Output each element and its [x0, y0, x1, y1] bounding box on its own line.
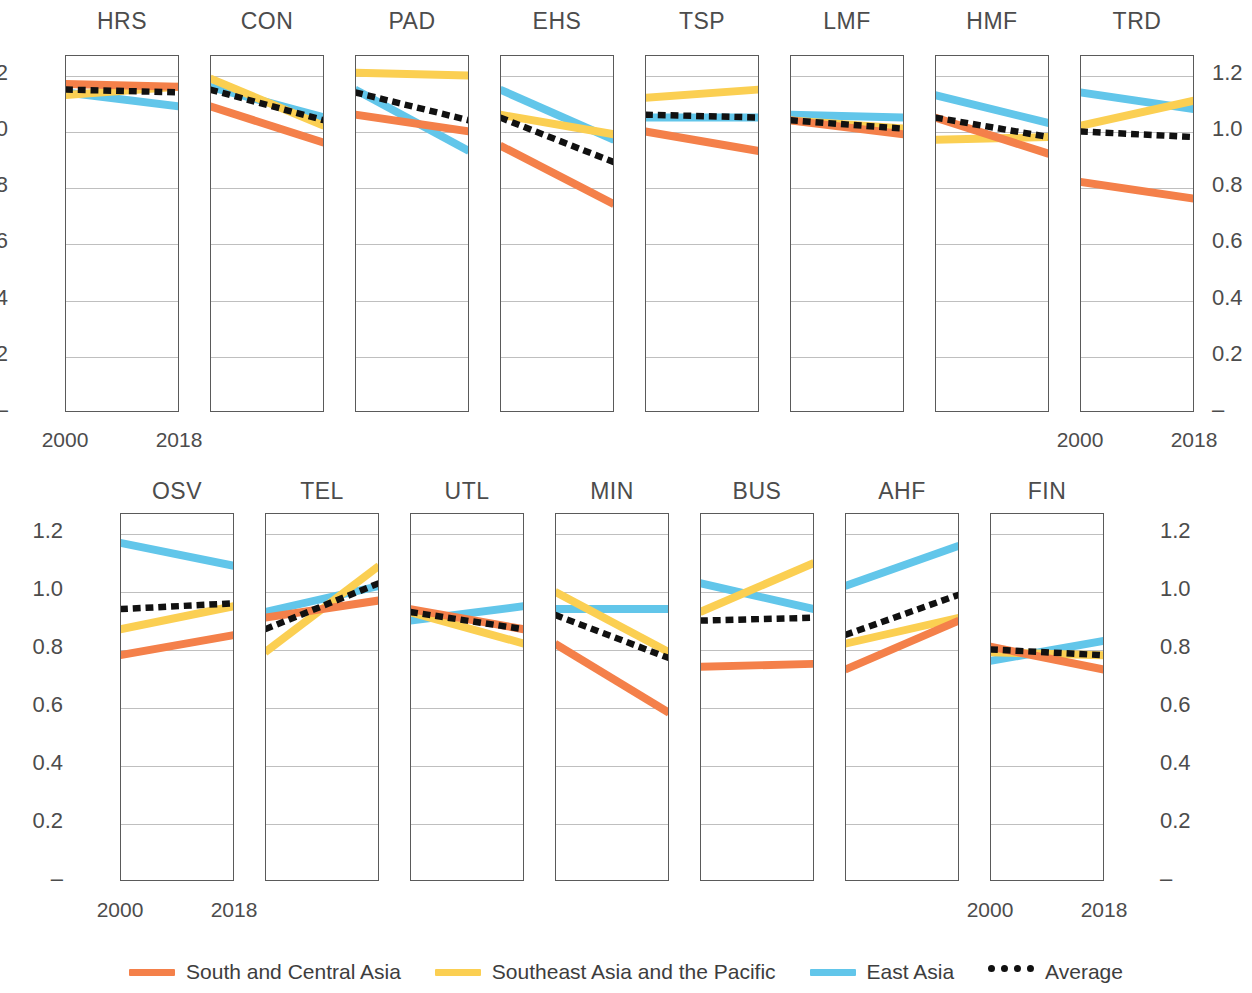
panel-title-fin: FIN: [990, 478, 1104, 505]
y-tick-label: 1.2: [1212, 60, 1252, 86]
panel-utl: [410, 513, 524, 881]
legend-item-south-and-central-asia[interactable]: South and Central Asia: [129, 960, 401, 984]
y-tick-label: 1.2: [13, 518, 63, 544]
panel-title-utl: UTL: [410, 478, 524, 505]
y-tick-label: –: [1212, 397, 1252, 423]
x-tick-label-2018: 2018: [1064, 898, 1144, 922]
y-tick-label: 0.8: [1212, 172, 1252, 198]
y-tick-label: 0.4: [0, 285, 8, 311]
panel-title-hrs: HRS: [65, 8, 179, 35]
panel-lines-lmf: [791, 56, 903, 411]
series-line-average: [645, 115, 759, 118]
panel-lines-hrs: [66, 56, 178, 411]
y-tick-label: 0.8: [13, 634, 63, 660]
panel-pad: [355, 55, 469, 412]
series-line-south-and-central-asia: [65, 84, 179, 87]
panel-lines-hmf: [936, 56, 1048, 411]
y-tick-label: 0.4: [1160, 750, 1220, 776]
panel-title-trd: TRD: [1080, 8, 1194, 35]
panel-lines-osv: [121, 514, 233, 880]
y-tick-label: –: [1160, 866, 1220, 892]
legend-swatch-icon: [810, 969, 856, 976]
x-tick-label-2000: 2000: [1040, 428, 1120, 452]
x-tick-label-2018: 2018: [194, 898, 274, 922]
panel-title-lmf: LMF: [790, 8, 904, 35]
panel-lines-ehs: [501, 56, 613, 411]
panel-hmf: [935, 55, 1049, 412]
y-tick-label: 0.6: [1212, 228, 1252, 254]
series-line-east-asia: [845, 546, 959, 586]
panel-osv: [120, 513, 234, 881]
series-line-average: [65, 90, 179, 93]
series-line-east-asia: [790, 115, 904, 118]
panel-tsp: [645, 55, 759, 412]
panel-ehs: [500, 55, 614, 412]
panel-title-hmf: HMF: [935, 8, 1049, 35]
panel-lines-min: [556, 514, 668, 880]
panel-title-ehs: EHS: [500, 8, 614, 35]
y-tick-label: 1.0: [13, 576, 63, 602]
y-tick-label: 0.2: [1212, 341, 1252, 367]
panel-con: [210, 55, 324, 412]
series-line-average: [790, 120, 904, 128]
y-tick-label: 0.6: [1160, 692, 1220, 718]
x-tick-label-2000: 2000: [950, 898, 1030, 922]
y-tick-label: 0.4: [13, 750, 63, 776]
y-tick-label: 0.6: [0, 228, 8, 254]
y-tick-label: 0.2: [13, 808, 63, 834]
y-tick-label: –: [0, 397, 8, 423]
y-tick-label: 0.8: [1160, 634, 1220, 660]
panel-min: [555, 513, 669, 881]
panel-title-ahf: AHF: [845, 478, 959, 505]
legend-swatch-icon: [129, 969, 175, 976]
y-tick-label: 1.2: [1160, 518, 1220, 544]
legend-swatch-icon: [435, 969, 481, 976]
panel-title-pad: PAD: [355, 8, 469, 35]
panel-title-bus: BUS: [700, 478, 814, 505]
y-tick-label: 0.8: [0, 172, 8, 198]
series-line-east-asia: [120, 543, 234, 566]
legend-label: Southeast Asia and the Pacific: [492, 960, 776, 984]
panel-trd: [1080, 55, 1194, 412]
y-tick-label: 0.4: [1212, 285, 1252, 311]
legend-swatch-icon: [988, 965, 1034, 979]
series-line-average: [1080, 131, 1194, 137]
panel-lines-con: [211, 56, 323, 411]
panel-lines-trd: [1081, 56, 1193, 411]
y-tick-label: 0.6: [13, 692, 63, 718]
panel-bus: [700, 513, 814, 881]
x-tick-label-2018: 2018: [1154, 428, 1234, 452]
panel-lines-utl: [411, 514, 523, 880]
panel-title-con: CON: [210, 8, 324, 35]
panel-lmf: [790, 55, 904, 412]
series-line-southeast-asia-and-the-pacific: [355, 73, 469, 76]
legend-item-average[interactable]: Average: [988, 960, 1123, 984]
y-tick-label: 1.0: [1212, 116, 1252, 142]
legend-label: East Asia: [867, 960, 955, 984]
panel-ahf: [845, 513, 959, 881]
y-tick-label: 1.0: [1160, 576, 1220, 602]
legend-label: Average: [1045, 960, 1123, 984]
series-line-south-and-central-asia: [645, 131, 759, 151]
legend-item-east-asia[interactable]: East Asia: [810, 960, 955, 984]
panel-hrs: [65, 55, 179, 412]
chart-legend: South and Central AsiaSoutheast Asia and…: [0, 960, 1252, 984]
panel-title-min: MIN: [555, 478, 669, 505]
legend-label: South and Central Asia: [186, 960, 401, 984]
panel-title-tsp: TSP: [645, 8, 759, 35]
panel-tel: [265, 513, 379, 881]
legend-item-southeast-asia-and-the-pacific[interactable]: Southeast Asia and the Pacific: [435, 960, 776, 984]
panel-lines-fin: [991, 514, 1103, 880]
panel-title-osv: OSV: [120, 478, 234, 505]
chart-root: HRSCONPADEHSTSPLMFHMFTRD 1.21.00.80.60.4…: [0, 0, 1252, 993]
panel-lines-ahf: [846, 514, 958, 880]
panel-lines-bus: [701, 514, 813, 880]
series-line-south-and-central-asia: [120, 635, 234, 655]
x-tick-label-2000: 2000: [80, 898, 160, 922]
y-tick-label: –: [13, 866, 63, 892]
y-tick-label: 0.2: [0, 341, 8, 367]
y-tick-label: 1.0: [0, 116, 8, 142]
panel-lines-pad: [356, 56, 468, 411]
series-line-average: [700, 618, 814, 621]
series-line-south-and-central-asia: [1080, 182, 1194, 199]
